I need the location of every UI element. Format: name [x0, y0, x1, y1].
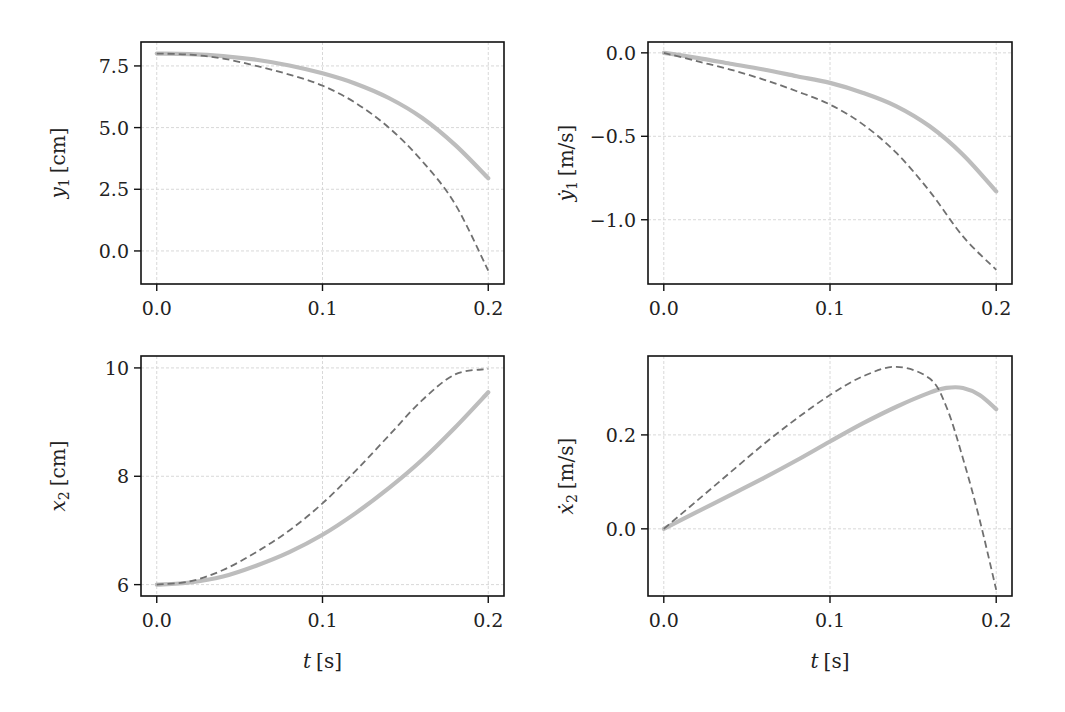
x-axis-ticks: 0.00.10.2 [142, 596, 504, 631]
y-tick-label: 0.0 [99, 240, 129, 262]
x-axis-ticks: 0.00.10.2 [649, 284, 1012, 319]
y-axis-label: ẏ1[m/s] [554, 125, 580, 203]
y-tick-label: 10 [105, 357, 129, 379]
y-tick-label: −1.0 [590, 209, 636, 231]
x-tick-label: 0.2 [473, 609, 503, 631]
y-axis-ticks: 0.0−0.5−1.0 [590, 42, 648, 231]
x-tick-label: 0.2 [473, 297, 503, 319]
figure: 0.00.10.27.55.02.50.0y1[cm]0.00.10.20.0−… [0, 0, 1065, 712]
y-tick-label: 0.0 [606, 518, 636, 540]
y-tick-label: 8 [117, 465, 129, 487]
grid-lines [648, 356, 1012, 596]
y-axis-label: x2[cm] [46, 441, 72, 512]
y-axis-ticks: 1086 [105, 357, 141, 596]
figure-canvas: 0.00.10.27.55.02.50.0y1[cm]0.00.10.20.0−… [0, 0, 1065, 712]
y-tick-label: 0.2 [606, 424, 636, 446]
y-tick-label: 6 [117, 574, 129, 596]
x-tick-label: 0.0 [142, 609, 172, 631]
y-axis-ticks: 7.55.02.50.0 [99, 55, 141, 262]
subplot-x2dot: 0.00.10.20.20.0ẋ2[m/s]t[s] [554, 356, 1012, 673]
x-tick-label: 0.0 [649, 609, 679, 631]
y-axis-ticks: 0.20.0 [606, 424, 648, 540]
x-tick-label: 0.1 [815, 609, 845, 631]
y-tick-label: 0.0 [606, 42, 636, 64]
y-tick-label: 7.5 [99, 55, 129, 77]
subplot-y1: 0.00.10.27.55.02.50.0y1[cm] [46, 42, 504, 319]
x-axis-label: t[s] [811, 649, 850, 673]
x-tick-label: 0.1 [815, 297, 845, 319]
subplot-y1dot: 0.00.10.20.0−0.5−1.0ẏ1[m/s] [554, 42, 1012, 319]
subplot-x2: 0.00.10.21086x2[cm]t[s] [46, 356, 504, 673]
x-axis-label: t[s] [303, 649, 342, 673]
x-tick-label: 0.1 [307, 609, 337, 631]
y-axis-label: ẋ2[m/s] [554, 438, 580, 515]
grid-lines [648, 42, 1012, 284]
y-axis-label: y1[cm] [46, 127, 72, 199]
x-axis-ticks: 0.00.10.2 [142, 284, 504, 319]
x-tick-label: 0.0 [142, 297, 172, 319]
x-axis-ticks: 0.00.10.2 [649, 596, 1012, 631]
y-tick-label: −0.5 [590, 125, 636, 147]
y-tick-label: 5.0 [99, 117, 129, 139]
x-tick-label: 0.2 [981, 297, 1011, 319]
grid-lines [141, 42, 504, 284]
x-tick-label: 0.2 [981, 609, 1011, 631]
x-tick-label: 0.0 [649, 297, 679, 319]
grid-lines [141, 356, 504, 596]
x-tick-label: 0.1 [307, 297, 337, 319]
y-tick-label: 2.5 [99, 178, 129, 200]
